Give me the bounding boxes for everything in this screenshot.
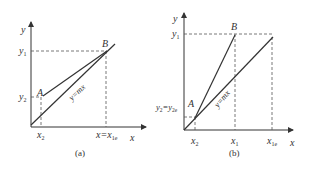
panel-a-y1-tick: y1 xyxy=(18,45,26,57)
panel-b-x-axis-label: x xyxy=(289,137,295,148)
panel-b: y x B A y=mx y1 y2=y2e x2 x1 x1e (b) xyxy=(155,13,295,158)
panel-a-point-b-label: B xyxy=(102,38,108,49)
panel-a-y2-tick: y2 xyxy=(18,91,26,103)
panel-b-y2-tick: y2=y2e xyxy=(155,102,178,113)
panel-a-x-axis-label: x xyxy=(129,132,135,143)
panel-a-caption: (a) xyxy=(75,148,85,158)
panel-a-x2-tick: x2 xyxy=(36,129,44,141)
panel-b-x1-tick: x1 xyxy=(230,135,238,147)
panel-a-equilibrium-line xyxy=(31,44,115,125)
panel-a-point-a-label: A xyxy=(36,87,44,98)
panel-b-line-label: y=mx xyxy=(211,88,232,110)
panel-b-y1-tick: y1 xyxy=(171,28,179,40)
panel-a-x1e-tick: x=x1e xyxy=(95,129,118,141)
panel-b-x2-tick: x2 xyxy=(190,135,198,147)
operating-line-diagrams: y x B A y=mx y1 y2 x2 x=x1e (a) y x B A … xyxy=(0,0,309,169)
panel-b-point-a-label: A xyxy=(187,98,195,109)
panel-b-x1e-tick: x1e xyxy=(266,135,277,147)
panel-a-y-axis-label: y xyxy=(20,24,26,35)
panel-a-line-label: y=mx xyxy=(66,82,88,104)
panel-b-equilibrium-line xyxy=(184,37,273,130)
panel-a: y x B A y=mx y1 y2 x2 x=x1e (a) xyxy=(18,22,146,158)
panel-b-caption: (b) xyxy=(229,148,240,158)
panel-b-y-axis-label: y xyxy=(172,13,178,24)
panel-b-point-b-label: B xyxy=(231,21,237,32)
